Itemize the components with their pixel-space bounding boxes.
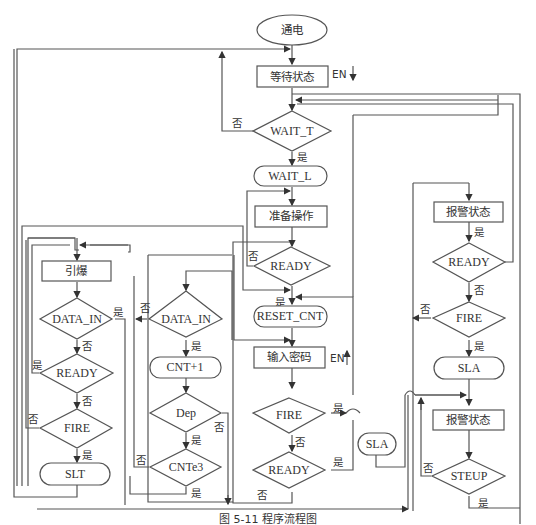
svg-text:READY: READY [448, 255, 490, 269]
node-wait-l: WAIT_L [254, 166, 327, 186]
node-slt: SLT [40, 463, 110, 485]
node-reset-cnt: RESET_CNT [254, 306, 327, 327]
svg-text:输入密码: 输入密码 [267, 350, 311, 364]
label-yes-steup: 是 [478, 497, 489, 509]
label-no-fire-left: 否 [28, 413, 39, 425]
svg-text:READY: READY [56, 366, 98, 380]
svg-text:SLA: SLA [366, 437, 389, 451]
node-ready-right: READY [433, 243, 505, 282]
label-yes-fire-right: 是 [474, 340, 485, 352]
node-alarm-state-2: 报警状态 [433, 410, 504, 430]
en-label-1: EN [332, 68, 347, 80]
svg-text:READY: READY [270, 259, 312, 273]
label-yes-alarm-1: 是 [474, 226, 485, 238]
node-sla-right: SLA [434, 357, 504, 379]
node-prepare: 准备操作 [255, 206, 327, 227]
label-no-fire-right: 否 [420, 303, 431, 315]
label-yes-dep: 是 [191, 434, 202, 446]
node-fire-right: FIRE [433, 302, 505, 337]
label-yes-fire-left: 是 [82, 449, 93, 461]
svg-text:等待状态: 等待状态 [270, 70, 315, 84]
figure-caption: 图 5-11 程序流程图 [219, 512, 317, 525]
node-power-on: 通电 [257, 15, 327, 45]
label-yes-ready-main-2: 是 [333, 456, 344, 468]
label-no-ready-main: 否 [248, 250, 259, 262]
label-yes-data-in-mid: 是 [191, 340, 202, 352]
node-data-in-left: DATA_IN [40, 298, 112, 339]
svg-text:引爆: 引爆 [65, 264, 88, 278]
node-sla-mid: SLA [358, 433, 396, 455]
label-yes-cnte3: 是 [191, 487, 202, 499]
svg-text:READY: READY [268, 463, 310, 477]
label-yes-wait-t: 是 [297, 151, 308, 163]
node-ready-left: READY [40, 354, 113, 393]
node-wait-state: 等待状态 [257, 66, 328, 87]
svg-text:报警状态: 报警状态 [446, 205, 491, 219]
svg-text:FIRE: FIRE [64, 421, 90, 435]
svg-text:FIRE: FIRE [456, 311, 482, 325]
svg-text:STEUP: STEUP [451, 469, 488, 483]
svg-text:RESET_CNT: RESET_CNT [257, 309, 324, 323]
label-yes-data-in-left: 是 [113, 306, 124, 318]
node-input-password: 输入密码 [254, 347, 325, 368]
label-no-steup: 否 [423, 462, 434, 474]
label-no-data-in-left: 否 [82, 340, 93, 352]
label-no-ready-right: 否 [474, 284, 485, 296]
node-fire-main: FIRE [253, 398, 325, 433]
label-yes-ready-left: 是 [32, 359, 43, 371]
node-detonate: 引爆 [42, 261, 111, 281]
node-fire-left: FIRE [40, 409, 112, 448]
node-data-in-mid: DATA_IN [149, 291, 222, 337]
svg-text:DATA_IN: DATA_IN [161, 312, 211, 326]
svg-text:WAIT_L: WAIT_L [268, 169, 311, 183]
label-no-data-in-mid: 否 [140, 302, 151, 314]
svg-text:SLT: SLT [65, 467, 86, 481]
node-ready-main: READY [254, 247, 330, 285]
node-dep: Dep [150, 393, 221, 432]
label-no-fire-main: 否 [295, 436, 306, 448]
svg-text:CNT+1: CNT+1 [167, 360, 204, 374]
svg-text:CNTe3: CNTe3 [169, 460, 204, 474]
svg-text:Dep: Dep [176, 406, 196, 420]
flowchart: 通电 等待状态 EN WAIT_T 否 是 WAIT_L 准备操作 READY … [0, 0, 536, 525]
label-no-cnte3: 否 [136, 454, 147, 466]
svg-text:WAIT_T: WAIT_T [270, 124, 314, 138]
label-yes-fire-main: 是 [333, 402, 344, 414]
en-label-2: EN [330, 352, 345, 364]
label-no-dep: 否 [214, 421, 225, 433]
svg-text:准备操作: 准备操作 [269, 209, 314, 223]
svg-text:报警状态: 报警状态 [446, 413, 491, 427]
node-alarm-state-1: 报警状态 [434, 202, 503, 222]
label-no-ready-left: 否 [82, 395, 93, 407]
node-ready-main-2: READY [253, 452, 325, 488]
label-no-wait-t: 否 [232, 117, 243, 129]
svg-text:通电: 通电 [281, 23, 304, 37]
svg-text:DATA_IN: DATA_IN [52, 312, 102, 326]
svg-text:FIRE: FIRE [276, 408, 302, 422]
node-cnt-increment: CNT+1 [150, 357, 221, 378]
node-steup: STEUP [432, 459, 505, 494]
label-no-ready-main-2: 否 [257, 489, 268, 501]
node-cnte3: CNTe3 [150, 449, 221, 486]
svg-text:SLA: SLA [458, 361, 481, 375]
node-wait-t: WAIT_T [253, 111, 331, 151]
